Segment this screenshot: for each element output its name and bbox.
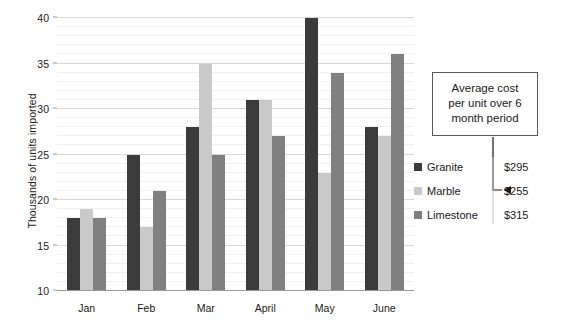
- x-axis-tick-label: June: [355, 302, 415, 314]
- plot-area: 10152025303540 JanFebMarAprilMayJune: [57, 18, 414, 291]
- y-axis-tick-label: 40: [37, 12, 49, 24]
- y-axis-tick-label: 25: [37, 149, 49, 161]
- x-axis-tick-label: Jan: [57, 302, 117, 314]
- bar-group: June: [355, 18, 415, 291]
- bar-chart: Thousands of units imported 101520253035…: [0, 0, 564, 328]
- bar-granite[interactable]: [365, 127, 378, 291]
- bar-limestone[interactable]: [331, 73, 344, 291]
- y-axis-tick-label: 20: [37, 194, 49, 206]
- bar-granite[interactable]: [186, 127, 199, 291]
- bar-marble[interactable]: [259, 100, 272, 291]
- bar-group: May: [295, 18, 355, 291]
- y-axis-tick-label: 10: [37, 285, 49, 297]
- callout-annotation: Average cost per unit over 6 month perio…: [432, 72, 538, 136]
- bar-granite[interactable]: [127, 155, 140, 292]
- legend: Granite$295Marble$255Limestone$315: [414, 155, 544, 227]
- bar-group: Jan: [57, 18, 117, 291]
- y-axis-tick-label: 35: [37, 58, 49, 70]
- bar-limestone[interactable]: [212, 155, 225, 292]
- bar-granite[interactable]: [67, 218, 80, 291]
- y-axis-tick-label: 30: [37, 103, 49, 115]
- x-axis-tick-label: Feb: [117, 302, 177, 314]
- legend-value: $295: [504, 161, 544, 173]
- bar-marble[interactable]: [199, 64, 212, 292]
- bar-limestone[interactable]: [153, 191, 166, 291]
- bar-marble[interactable]: [140, 227, 153, 291]
- bar-limestone[interactable]: [93, 218, 106, 291]
- legend-value: $255: [504, 185, 544, 197]
- bar-limestone[interactable]: [391, 54, 404, 291]
- y-axis-title: Thousands of units imported: [26, 46, 38, 276]
- bar-group: Feb: [117, 18, 177, 291]
- legend-value: $315: [504, 209, 544, 221]
- x-axis-line: [57, 290, 414, 291]
- y-axis-tick-label: 15: [37, 240, 49, 252]
- x-axis-tick-label: Mar: [176, 302, 236, 314]
- bar-granite[interactable]: [305, 18, 318, 291]
- legend-item[interactable]: Limestone$315: [414, 203, 544, 227]
- legend-item[interactable]: Granite$295: [414, 155, 544, 179]
- legend-label: Limestone: [427, 209, 504, 221]
- legend-label: Marble: [427, 185, 504, 197]
- x-axis-tick-label: April: [236, 302, 296, 314]
- bar-granite[interactable]: [246, 100, 259, 291]
- bar-limestone[interactable]: [272, 136, 285, 291]
- bar-group: Mar: [176, 18, 236, 291]
- bar-marble[interactable]: [378, 136, 391, 291]
- x-axis-tick-label: May: [295, 302, 355, 314]
- legend-swatch-icon: [414, 163, 422, 171]
- legend-swatch-icon: [414, 211, 422, 219]
- legend-label: Granite: [427, 161, 504, 173]
- bar-group: April: [236, 18, 296, 291]
- legend-swatch-icon: [414, 187, 422, 195]
- bar-groups: JanFebMarAprilMayJune: [57, 18, 414, 291]
- bar-marble[interactable]: [80, 209, 93, 291]
- bar-marble[interactable]: [318, 173, 331, 291]
- legend-item[interactable]: Marble$255: [414, 179, 544, 203]
